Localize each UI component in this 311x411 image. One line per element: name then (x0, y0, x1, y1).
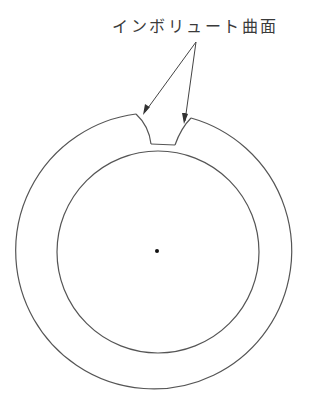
leader-line-right (185, 42, 196, 121)
right-involute-flank (175, 118, 191, 145)
arrowhead-left-icon (143, 104, 150, 115)
gear-diagram (0, 0, 311, 411)
center-point (155, 249, 159, 253)
involute-surface-label: インボリュート曲面 (112, 17, 279, 37)
left-involute-flank (136, 114, 151, 144)
gap-bottom (151, 144, 175, 145)
diagram-canvas: インボリュート曲面 (0, 0, 311, 411)
leader-line-left (145, 42, 196, 112)
